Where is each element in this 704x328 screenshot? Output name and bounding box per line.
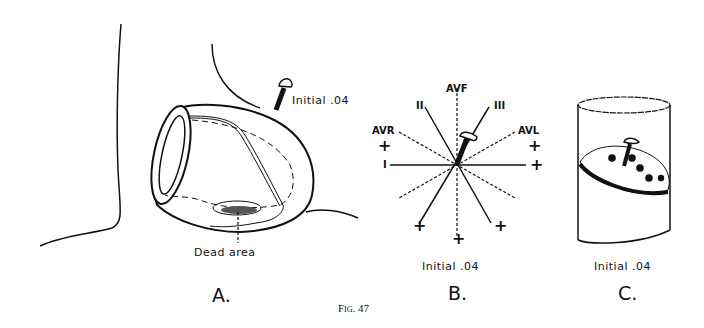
- plane-dot: [628, 154, 636, 162]
- figure-47-diagram: [0, 0, 704, 328]
- lead-iii-label: III: [494, 100, 505, 111]
- vector-arrow-a-head: [279, 79, 292, 87]
- plane-ellipse: [580, 146, 669, 194]
- cylinder-top: [578, 97, 670, 113]
- panel-a-letter: A.: [212, 284, 231, 306]
- lead-avr-label: AVR: [372, 125, 395, 136]
- panel-a-vector-label: Initial .04: [292, 94, 349, 107]
- lead-avf-label: AVF: [446, 83, 468, 94]
- plus-marker-avr: +: [378, 136, 391, 155]
- vector-arrow-a-shaft: [276, 88, 284, 110]
- torso-left-outline: [40, 24, 121, 246]
- vector-arrow-b-head: [460, 132, 477, 140]
- panel-c-cylinder: [578, 97, 670, 243]
- vector-arrow-c-head: [624, 138, 639, 143]
- plane-dot: [608, 154, 616, 162]
- panel-a-dead-area-label: Dead area: [194, 246, 256, 259]
- lead-ii-label: II: [416, 100, 423, 111]
- panel-b-vector-label: Initial .04: [422, 260, 479, 273]
- plus-marker-avf: +: [452, 229, 465, 248]
- plane-dot: [636, 164, 644, 172]
- plus-marker-ii: +: [413, 216, 426, 235]
- dead-area-hatched: [221, 206, 257, 214]
- diaphragm-outline: [306, 210, 358, 218]
- panel-b-hexaxial: [390, 88, 526, 236]
- lead-i-label: I: [383, 159, 387, 170]
- cylinder-bottom: [578, 230, 670, 243]
- torso-right-outline: [212, 44, 260, 108]
- panel-c-letter: C.: [618, 282, 637, 304]
- panel-c-vector-label: Initial .04: [594, 260, 651, 273]
- plane-dot: [645, 174, 653, 182]
- plane-edge-thick: [580, 164, 668, 193]
- plus-marker-avl: +: [528, 136, 541, 155]
- plus-marker-i: +: [530, 155, 543, 174]
- panel-b-letter: B.: [448, 282, 467, 304]
- panel-a-drawing: [40, 24, 358, 246]
- figure-caption: Fig. 47: [338, 302, 369, 314]
- plus-marker-iii: +: [494, 216, 507, 235]
- lead-avl-label: AVL: [518, 125, 539, 136]
- plane-dot: [658, 175, 664, 181]
